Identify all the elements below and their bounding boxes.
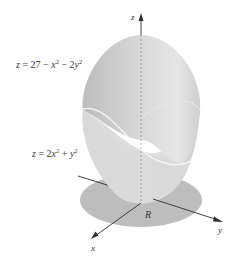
x-axis-arrow-icon <box>91 232 99 240</box>
y-axis-label: y <box>217 225 222 235</box>
lower-surface-equation: z = 2x2 + y2 <box>31 147 78 159</box>
upper-surface-equation: z = 27 − x2 − 2y2 <box>15 58 82 70</box>
region-label: R <box>144 209 151 220</box>
y-axis-arrow-icon <box>213 217 223 223</box>
x-axis-label: x <box>90 243 95 253</box>
z-axis-arrow-icon <box>139 13 144 21</box>
z-axis-label: z <box>130 12 135 22</box>
double-integral-volume-diagram: z y x R z = 27 − x2 − 2y2 z = 2x2 + y2 <box>0 0 237 260</box>
